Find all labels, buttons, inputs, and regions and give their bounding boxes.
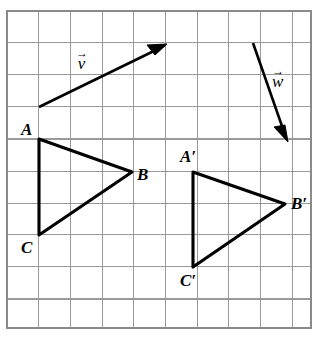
triangle-a-prime-b-prime-c-prime-outline (193, 172, 285, 267)
point-label-b: B (137, 166, 148, 183)
vector-translation-diagram: A B C A′ B′ C′ → ν → w (0, 0, 316, 337)
triangle-abc-outline (39, 139, 132, 235)
point-label-a-prime: A′ (180, 148, 196, 165)
grid-border (7, 11, 311, 328)
vector-v-shaft (39, 49, 158, 107)
point-label-b-prime: B′ (291, 195, 307, 212)
diagram-canvas (0, 0, 316, 337)
vector-label-v: → ν (76, 50, 87, 72)
vector-w (253, 43, 288, 142)
grid-lines (7, 11, 311, 328)
triangle-a-prime-b-prime-c-prime (193, 172, 285, 267)
point-label-a: A (21, 121, 32, 138)
vector-label-w: → w (272, 68, 283, 90)
point-label-c-prime: C′ (180, 272, 196, 289)
triangle-abc (39, 139, 132, 235)
vector-v (39, 44, 167, 107)
vector-label-w-glyph: w (272, 73, 283, 90)
point-label-c: C (21, 239, 32, 256)
